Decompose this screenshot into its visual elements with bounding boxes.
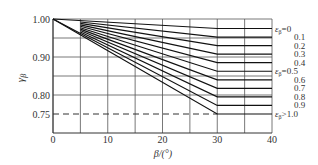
x-axis-label: β/(°) (153, 148, 173, 160)
chart: 0102030401.000.900.800.75 εβ=00.10.20.30… (0, 0, 318, 165)
y-tick-label: 0.90 (33, 52, 51, 63)
x-tick-label: 20 (158, 134, 168, 145)
x-tick-label: 0 (51, 134, 56, 145)
x-tick-label: 10 (103, 134, 113, 145)
series-line (80, 22, 272, 37)
legend-label: εβ=0 (275, 24, 292, 35)
y-tick-label: 0.80 (33, 90, 51, 101)
x-tick-label: 40 (267, 134, 277, 145)
legend: εβ=00.10.20.30.4εβ=0.50.60.70.80.9εβ>1.0 (275, 24, 306, 121)
y-tick-label: 0.75 (33, 109, 51, 120)
legend-label: εβ>1.0 (275, 109, 298, 120)
x-tick-label: 30 (212, 134, 222, 145)
y-tick-label: 1.00 (33, 14, 51, 25)
y-axis-label: γβ (14, 74, 28, 82)
